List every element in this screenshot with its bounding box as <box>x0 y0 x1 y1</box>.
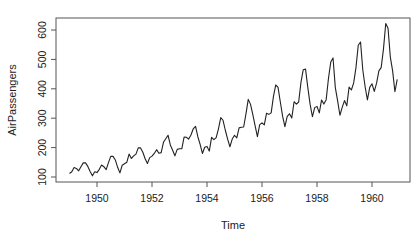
y-axis: 100200300400500600 <box>36 21 56 186</box>
y-tick-label: 400 <box>36 80 48 98</box>
y-axis-title: AirPassengers <box>6 64 18 136</box>
y-tick-label: 600 <box>36 21 48 39</box>
x-tick-label: 1954 <box>195 192 219 204</box>
x-axis: 195019521954195619581960 <box>85 182 384 204</box>
y-tick-label: 100 <box>36 168 48 186</box>
x-tick-label: 1950 <box>85 192 109 204</box>
chart: 195019521954195619581960 100200300400500… <box>0 0 418 241</box>
y-tick-label: 500 <box>36 50 48 68</box>
plot-box <box>56 18 410 182</box>
x-tick-label: 1958 <box>305 192 329 204</box>
x-tick-label: 1956 <box>250 192 274 204</box>
x-tick-label: 1960 <box>360 192 384 204</box>
y-tick-label: 200 <box>36 139 48 157</box>
x-tick-label: 1952 <box>140 192 164 204</box>
x-axis-title: Time <box>221 219 245 231</box>
y-tick-label: 300 <box>36 109 48 127</box>
series-line-airpassengers <box>70 24 398 176</box>
